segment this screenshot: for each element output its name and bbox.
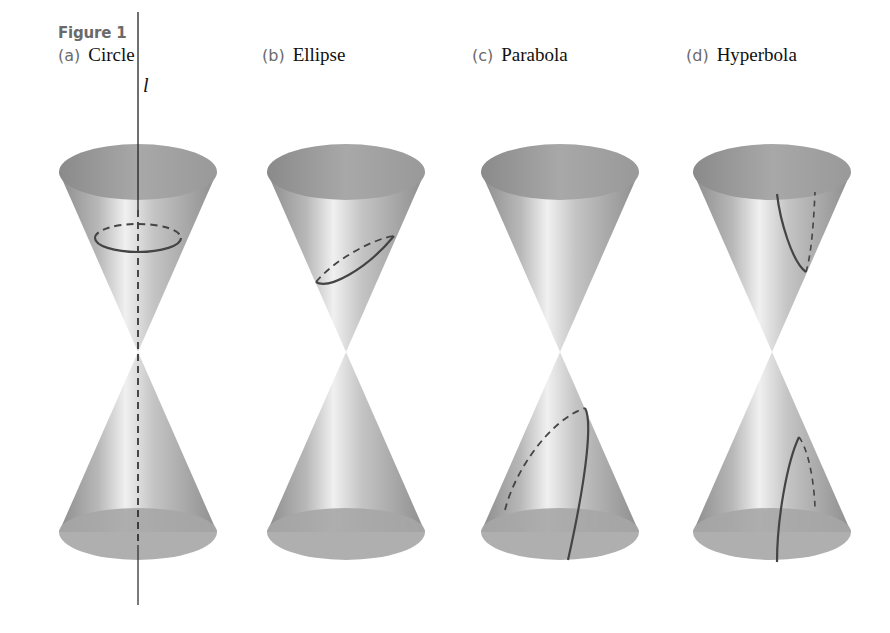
double-cone-hyperbola bbox=[693, 144, 851, 562]
double-cone-parabola bbox=[481, 144, 639, 560]
double-cone-circle bbox=[59, 12, 217, 605]
double-cone-ellipse bbox=[267, 144, 425, 560]
conic-sections-diagram bbox=[0, 0, 890, 633]
